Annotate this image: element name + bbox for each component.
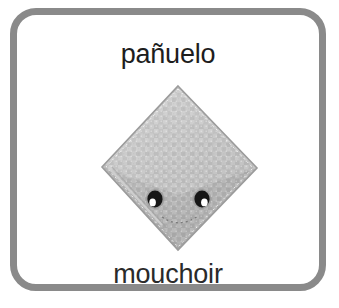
eye-right	[193, 189, 212, 209]
eye-left	[146, 189, 165, 209]
cloth-body	[102, 86, 257, 250]
page-title: pañuelo	[17, 38, 319, 70]
flashcard: pañuelo	[10, 8, 326, 291]
translation-label: mouchoir	[17, 258, 319, 290]
handkerchief-illustration	[100, 75, 270, 260]
